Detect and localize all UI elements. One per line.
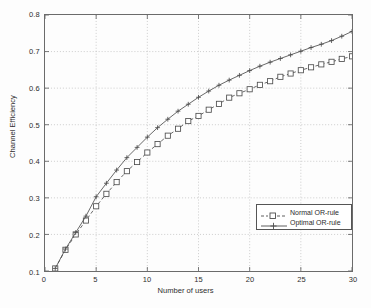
grid-lines [45, 15, 352, 271]
x-tick-label: 20 [246, 275, 255, 284]
x-tick-label: 25 [297, 275, 306, 284]
legend-entry-optimal-or-rule: Optimal OR-rule [260, 217, 348, 227]
figure-canvas: 0.10.20.30.40.50.60.70.8 051015202530 Ch… [0, 0, 371, 308]
y-axis-title-wrapper: Channel Efficiency [4, 0, 18, 286]
x-axis-title: Number of users [0, 286, 371, 295]
plot-svg [45, 15, 352, 271]
legend-entry-normal-or-rule: Normal OR-rule [260, 207, 348, 217]
x-tick-label: 0 [42, 275, 46, 284]
x-tick-label: 5 [93, 275, 97, 284]
legend-label-normal-or-rule: Normal OR-rule [288, 209, 339, 216]
legend-sample-optimal-or-rule [260, 217, 288, 227]
series-line-1 [55, 31, 352, 268]
x-tick-label: 10 [143, 275, 152, 284]
data-series-group [53, 29, 352, 271]
y-axis-title: Channel Efficiency [8, 67, 17, 187]
plot-area [44, 14, 353, 272]
x-tick-label: 30 [349, 275, 358, 284]
legend-line-plus-icon [260, 221, 288, 231]
legend-sample-normal-or-rule [260, 207, 288, 217]
legend: Normal OR-rule Optimal OR-rule [256, 204, 352, 230]
legend-label-optimal-or-rule: Optimal OR-rule [288, 219, 341, 226]
x-tick-label: 15 [194, 275, 203, 284]
